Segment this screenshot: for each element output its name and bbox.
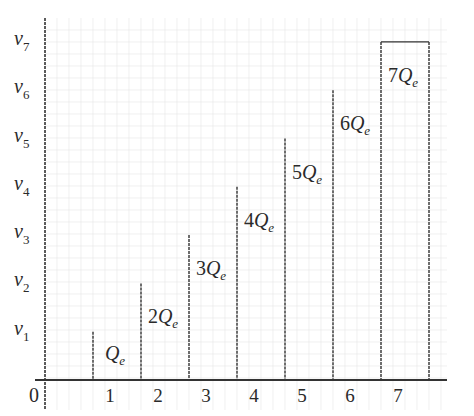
x-tick-label: 3 bbox=[201, 385, 211, 406]
x-tick-label: 6 bbox=[345, 385, 355, 406]
bar-label: 4Qe bbox=[244, 209, 274, 235]
bar-labels: Qe2Qe3Qe4Qe5Qe6Qe7Qe bbox=[105, 64, 418, 368]
y-tick-label: v6 bbox=[14, 75, 30, 102]
origin-label: 0 bbox=[29, 384, 39, 406]
bar-label: 7Qe bbox=[388, 64, 418, 90]
bar-label: 3Qe bbox=[196, 257, 226, 283]
x-tick-label: 5 bbox=[297, 385, 307, 406]
y-tick-label: v1 bbox=[14, 317, 29, 344]
bar-label: 6Qe bbox=[340, 112, 370, 138]
x-tick-label: 7 bbox=[393, 385, 403, 406]
y-tick-label: v7 bbox=[14, 27, 30, 54]
x-tick-labels: 1234567 bbox=[105, 385, 403, 406]
x-tick-label: 1 bbox=[105, 385, 115, 406]
y-tick-label: v2 bbox=[14, 268, 29, 295]
y-tick-label: v4 bbox=[14, 172, 30, 199]
axes bbox=[35, 18, 447, 410]
y-tick-labels: v1v2v3v4v5v6v7 bbox=[14, 27, 30, 344]
bar-label: 5Qe bbox=[292, 161, 322, 187]
bar-label: 2Qe bbox=[148, 305, 178, 331]
y-tick-label: v3 bbox=[14, 220, 29, 247]
staircase-diagram: v1v2v3v4v5v6v7 1234567 Qe2Qe3Qe4Qe5Qe6Qe… bbox=[0, 0, 474, 416]
x-tick-label: 2 bbox=[153, 385, 163, 406]
x-tick-label: 4 bbox=[249, 385, 259, 406]
bar-label: Qe bbox=[105, 342, 125, 368]
y-tick-label: v5 bbox=[14, 124, 29, 151]
